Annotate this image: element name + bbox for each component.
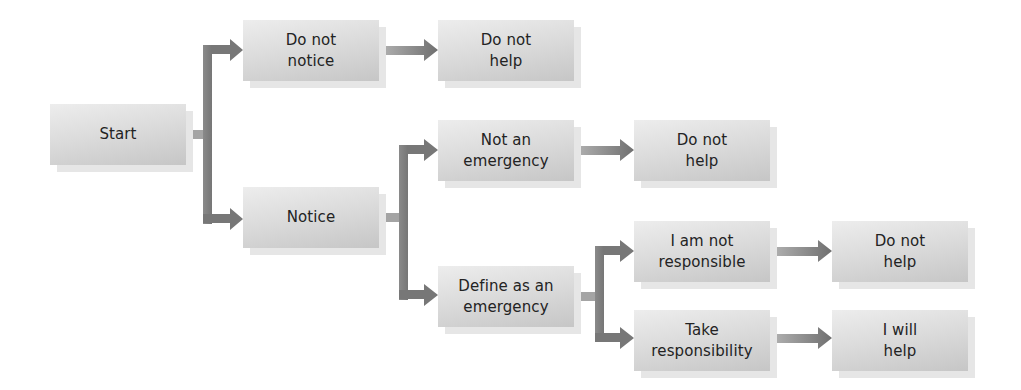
stub-notice [379, 213, 401, 222]
node-not-an-emergency: Not an emergency [438, 120, 574, 181]
stub-define [574, 292, 597, 301]
node-i-will-help: I will help [832, 310, 968, 371]
node-notice: Notice [243, 187, 379, 248]
node-i-am-not-responsible: I am not responsible [634, 221, 770, 282]
node-take-responsibility: Take responsibility [634, 310, 770, 371]
arrow-take-responsibility-to-i-will-help [771, 327, 832, 349]
bystander-decision-flowchart: Start Do not notice Do not help Notice N… [0, 0, 1021, 390]
stub-start [184, 130, 206, 139]
node-do-not-help-3: Do not help [832, 221, 968, 282]
node-do-not-help-2: Do not help [634, 120, 770, 181]
vertical-bar-2 [399, 145, 408, 300]
arrow-do-not-notice-to-do-not-help [379, 39, 438, 61]
branch-notice [379, 139, 438, 306]
arrow-not-an-emergency-to-do-not-help [574, 139, 634, 161]
node-label: Do not help [875, 231, 926, 273]
node-label: Define as an emergency [458, 276, 553, 318]
vertical-bar-3 [595, 246, 604, 342]
node-define-as-emergency: Define as an emergency [438, 266, 574, 327]
node-do-not-help-1: Do not help [438, 20, 574, 81]
branch-start [184, 39, 243, 230]
vertical-bar-1 [203, 45, 212, 224]
node-label: Notice [287, 207, 336, 228]
node-label: Take responsibility [651, 320, 752, 362]
node-label: Not an emergency [463, 130, 548, 172]
node-label: Start [99, 124, 136, 145]
node-label: Do not notice [286, 30, 337, 72]
node-label: Do not help [481, 30, 532, 72]
node-start: Start [50, 104, 186, 165]
branch-define [574, 240, 634, 349]
node-label: I will help [883, 320, 918, 362]
node-do-not-notice: Do not notice [243, 20, 379, 81]
arrow-not-responsible-to-do-not-help [771, 240, 832, 262]
node-label: I am not responsible [658, 231, 745, 273]
node-label: Do not help [677, 130, 728, 172]
